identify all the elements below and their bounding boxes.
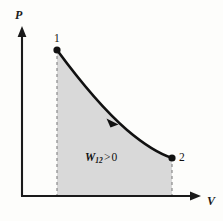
x-axis-label: V: [207, 195, 215, 207]
arrow-up-icon: [18, 26, 27, 37]
state-point-1-label: 1: [54, 33, 60, 45]
y-axis-label: P: [15, 9, 22, 21]
state-point-2-marker: [168, 154, 175, 161]
work-value: 0: [111, 151, 118, 163]
state-point-1-marker: [53, 46, 60, 53]
pv-diagram-canvas: [0, 0, 223, 221]
pv-diagram-figure: P V 1 2 W12>0: [0, 0, 223, 221]
state-point-2-label: 2: [179, 152, 185, 164]
work-annotation-label: W12>0: [85, 152, 117, 164]
work-symbol: W: [85, 151, 95, 163]
arrow-right-icon: [190, 192, 201, 201]
work-relation-operator: >: [102, 151, 110, 163]
